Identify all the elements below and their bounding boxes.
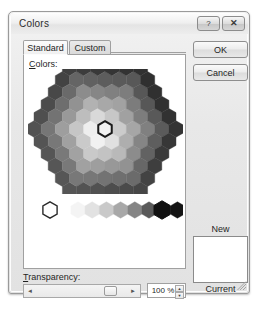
swatch-gray[interactable] (99, 202, 113, 218)
close-icon: ✕ (230, 19, 238, 28)
transparency-label: Transparency: (23, 272, 80, 282)
swatch-gray[interactable] (170, 202, 183, 218)
spinner-down-button[interactable]: ▼ (175, 292, 184, 299)
transparency-value: 100 % (148, 286, 178, 295)
spinner-buttons: ▲ ▼ (175, 285, 184, 296)
colors-panel: Colors: (23, 54, 186, 269)
tab-strip: Standard Custom (23, 40, 186, 55)
tab-standard-label: Standard (27, 43, 64, 53)
cancel-button-label: Cancel (206, 68, 234, 78)
spinner-up-button[interactable]: ▲ (175, 285, 184, 292)
colors-dialog: Colors ? ✕ Standard Custom Colors: OK Ca… (8, 11, 250, 294)
tab-custom-label: Custom (74, 43, 105, 53)
swatch-black[interactable] (154, 201, 170, 219)
title-bar: Colors ? ✕ (11, 14, 248, 34)
ok-button[interactable]: OK (193, 41, 248, 58)
colors-label: Colors: (29, 59, 58, 69)
swatch-gray[interactable] (71, 202, 85, 218)
slider-thumb[interactable] (104, 286, 117, 296)
window-title: Colors (19, 18, 49, 29)
cancel-button[interactable]: Cancel (193, 64, 248, 81)
ok-button-label: OK (214, 45, 227, 55)
transparency-spinner[interactable]: 100 % ▲ ▼ (147, 283, 186, 298)
tab-standard[interactable]: Standard (23, 40, 68, 55)
swatch-white[interactable] (43, 202, 57, 218)
tab-custom[interactable]: Custom (69, 40, 111, 55)
resize-grip[interactable] (237, 281, 247, 291)
transparency-label-rest: ransparency: (28, 272, 80, 282)
close-button[interactable]: ✕ (222, 16, 245, 31)
transparency-slider[interactable]: ◄ ► (23, 284, 141, 298)
colors-label-rest: olors: (36, 59, 58, 69)
help-button[interactable]: ? (197, 16, 220, 31)
color-honeycomb[interactable] (28, 69, 183, 194)
slider-right-arrow-icon[interactable]: ► (128, 286, 138, 296)
swatch-gray[interactable] (114, 202, 128, 218)
swatch-gray[interactable] (85, 202, 99, 218)
swatch-gray[interactable] (128, 202, 142, 218)
question-mark-icon: ? (206, 20, 210, 28)
new-color-label: New (193, 224, 248, 234)
new-color-swatch (194, 237, 247, 282)
slider-left-arrow-icon[interactable]: ◄ (25, 286, 35, 296)
color-preview-box (193, 236, 248, 283)
grayscale-swatch-row[interactable] (28, 195, 183, 225)
